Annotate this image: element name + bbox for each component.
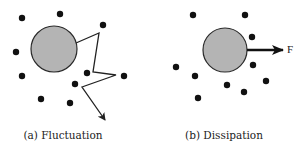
- small-particle: [84, 70, 90, 76]
- brownian-trajectory-arrow: [76, 33, 116, 120]
- small-particle: [249, 34, 255, 40]
- small-particle: [100, 22, 106, 28]
- small-particle: [67, 100, 73, 106]
- small-particle: [192, 73, 198, 79]
- small-particle: [121, 73, 127, 79]
- large-particle: [203, 28, 247, 72]
- caption-fluctuation: (a) Fluctuation: [24, 129, 103, 141]
- small-particle: [195, 95, 201, 101]
- small-particle: [250, 62, 256, 68]
- small-particle: [263, 78, 269, 84]
- small-particle: [224, 82, 230, 88]
- diagram-canvas: [0, 0, 306, 149]
- small-particle: [19, 73, 25, 79]
- small-particle: [19, 15, 25, 21]
- panel-fluctuation: [13, 11, 127, 120]
- small-particle: [57, 11, 63, 17]
- small-particle: [72, 81, 78, 87]
- caption-dissipation: (b) Dissipation: [185, 129, 263, 141]
- small-particle: [38, 96, 44, 102]
- large-particle: [31, 26, 77, 72]
- small-particle: [242, 12, 248, 18]
- small-particle: [173, 64, 179, 70]
- panel-dissipation: [173, 12, 283, 101]
- small-particle: [241, 89, 247, 95]
- force-label: F: [287, 43, 293, 55]
- small-particle: [190, 12, 196, 18]
- small-particle: [13, 49, 19, 55]
